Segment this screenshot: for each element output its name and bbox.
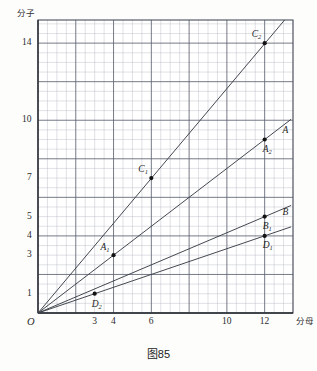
point-D2 xyxy=(93,292,97,296)
x-tick-10: 10 xyxy=(222,317,232,327)
x-tick-3: 3 xyxy=(92,317,97,327)
y-tick-7: 7 xyxy=(27,173,32,183)
plot-background xyxy=(38,20,293,313)
point-label-A2: A2 xyxy=(263,145,272,155)
point-label-A1: A1 xyxy=(101,243,110,253)
x-tick-6: 6 xyxy=(149,317,154,327)
point-A1 xyxy=(111,253,115,257)
coordinate-plot xyxy=(0,0,317,371)
point-label-B1: B1 xyxy=(263,222,272,232)
end-label-B: B xyxy=(283,208,289,218)
y-tick-3: 3 xyxy=(27,250,32,260)
y-tick-10: 10 xyxy=(22,115,32,125)
x-tick-4: 4 xyxy=(111,317,116,327)
point-label-D2: D2 xyxy=(92,300,102,310)
x-axis-title: 分母 xyxy=(296,317,314,326)
point-label-D1: D1 xyxy=(263,241,273,251)
y-tick-1: 1 xyxy=(27,289,32,299)
figure-caption: 图85 xyxy=(0,345,317,361)
end-label-A: A xyxy=(283,126,289,136)
point-C1 xyxy=(149,176,153,180)
point-C2 xyxy=(263,41,267,45)
point-D1 xyxy=(263,234,267,238)
figure-85: C1C2A1A2AB1BD2D13461012134571014分子分母O 图8… xyxy=(0,0,317,371)
point-label-C1: C1 xyxy=(138,165,148,175)
y-tick-5: 5 xyxy=(27,212,32,222)
y-tick-4: 4 xyxy=(27,231,32,241)
point-A2 xyxy=(263,137,267,141)
origin-label: O xyxy=(27,316,35,327)
x-tick-12: 12 xyxy=(260,317,270,327)
point-B1 xyxy=(263,215,267,219)
point-label-C2: C2 xyxy=(252,30,262,40)
y-axis-title: 分子 xyxy=(17,9,35,18)
y-tick-14: 14 xyxy=(22,38,32,48)
